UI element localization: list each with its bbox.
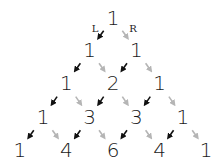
left-arrow-icon: [52, 97, 57, 104]
cell-r2-c0: 1: [60, 73, 73, 93]
cell-r3-c3: 1: [177, 107, 190, 127]
right-arrow-icon: [146, 63, 151, 70]
right-arrow-icon: [99, 130, 104, 137]
left-arrow-icon: [75, 63, 80, 70]
right-arrow-icon: [52, 130, 57, 137]
left-arrow-icon: [75, 130, 80, 137]
right-arrow-icon: [122, 97, 127, 104]
right-arrow-icon: [146, 130, 151, 137]
left-arrow-icon: [29, 130, 34, 137]
cell-r3-c0: 1: [37, 107, 50, 127]
right-arrow-icon: [169, 97, 174, 104]
pascals-triangle-diagram: L R 111121133114641: [0, 0, 222, 168]
left-label: L: [92, 24, 99, 34]
cell-r1-c0: 1: [83, 40, 96, 60]
cell-r4-c3: 4: [153, 140, 166, 160]
left-arrow-icon: [99, 31, 104, 38]
left-arrow-icon: [122, 130, 127, 137]
cell-r3-c1: 3: [83, 107, 96, 127]
right-arrow-icon: [122, 31, 127, 38]
cell-r0-c0: 1: [107, 8, 120, 28]
cell-r3-c2: 3: [130, 107, 143, 127]
cell-r2-c2: 1: [153, 73, 166, 93]
cell-r4-c0: 1: [13, 140, 26, 160]
cell-r2-c1: 2: [107, 73, 120, 93]
left-arrow-icon: [99, 97, 104, 104]
cell-r4-c4: 1: [200, 140, 213, 160]
left-arrow-icon: [122, 63, 127, 70]
right-arrow-icon: [76, 97, 81, 104]
cell-r4-c1: 4: [60, 140, 73, 160]
left-arrow-icon: [145, 97, 150, 104]
right-label: R: [129, 24, 137, 34]
left-arrow-icon: [168, 130, 173, 137]
right-arrow-icon: [192, 130, 197, 137]
cell-r4-c2: 6: [107, 140, 120, 160]
right-arrow-icon: [99, 63, 104, 70]
cell-r1-c1: 1: [130, 40, 143, 60]
